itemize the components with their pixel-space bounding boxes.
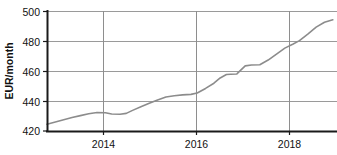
y-tick-label-440: 440 — [22, 96, 40, 108]
x-tick-label-2018: 2018 — [278, 138, 302, 150]
y-tick-label-480: 480 — [22, 36, 40, 48]
y-tick-label-500: 500 — [22, 6, 40, 18]
line-chart: 500 480 460 440 420 2014 2016 2018 EUR/m… — [0, 0, 337, 155]
y-tick-label-420: 420 — [22, 125, 40, 137]
x-tick-label-2014: 2014 — [92, 138, 116, 150]
y-axis-title: EUR/month — [3, 42, 15, 99]
x-tick-label-2016: 2016 — [185, 138, 209, 150]
chart-canvas: 500 480 460 440 420 2014 2016 2018 EUR/m… — [0, 0, 337, 155]
y-tick-label-460: 460 — [22, 66, 40, 78]
